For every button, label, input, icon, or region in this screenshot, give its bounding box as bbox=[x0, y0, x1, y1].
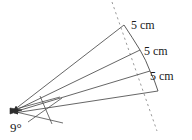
apex-angle-label: 9° bbox=[10, 121, 22, 134]
apex-helper-line-1 bbox=[12, 97, 60, 110]
ray-4 bbox=[14, 91, 158, 113]
geometry-figure: 5 cm 5 cm 5 cm 9° bbox=[0, 0, 192, 140]
ray-3 bbox=[14, 71, 150, 112]
apex-helper-line-3 bbox=[40, 96, 52, 124]
segment-length-label-1: 5 cm bbox=[131, 19, 155, 31]
segment-length-label-2: 5 cm bbox=[144, 45, 168, 57]
segment-length-label-3: 5 cm bbox=[150, 70, 174, 82]
ray-group bbox=[14, 25, 158, 113]
ray-1 bbox=[14, 25, 124, 110]
ray-2 bbox=[14, 50, 140, 111]
